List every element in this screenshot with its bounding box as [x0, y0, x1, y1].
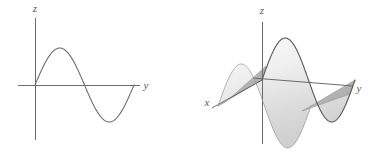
figure-root: z y — [0, 0, 389, 152]
y-axis-label: y — [143, 79, 149, 91]
z-axis-label: z — [32, 2, 38, 14]
plane-curve-panel: z y — [0, 0, 195, 152]
surface-svg: z y x — [195, 0, 389, 152]
z-axis-label: z — [259, 4, 265, 16]
surface-panel: z y x — [195, 0, 389, 152]
plane-curve-svg: z y — [0, 0, 195, 152]
y-axis-label: y — [356, 82, 362, 94]
x-axis-label: x — [204, 96, 210, 108]
